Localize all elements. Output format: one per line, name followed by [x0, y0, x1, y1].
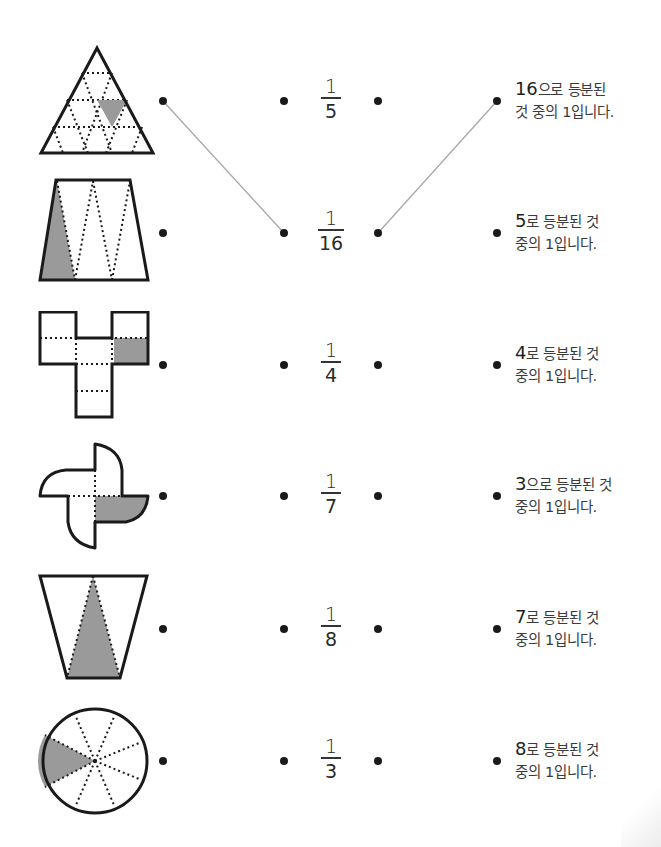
triangle-shape	[38, 45, 156, 157]
shaded-part	[95, 496, 148, 522]
fraction-right-dot-row-2[interactable]	[374, 229, 382, 237]
fraction-right-dot-row-1[interactable]	[374, 97, 382, 105]
fraction-row-5: 1 8	[311, 604, 351, 649]
fraction-right-dot-row-4[interactable]	[374, 492, 382, 500]
description-row-3: 4로 등분된 것 중의 1입니다.	[515, 342, 599, 387]
fraction-bar	[321, 757, 341, 759]
fraction-left-dot-row-5[interactable]	[280, 625, 288, 633]
description-lead: 7	[515, 606, 526, 627]
description-dot-row-1[interactable]	[493, 97, 501, 105]
description-line2: 중의 1입니다.	[515, 368, 597, 384]
fraction-bar	[321, 492, 341, 494]
fraction-right-dot-row-5[interactable]	[374, 625, 382, 633]
description-line1: 으로 등분된	[538, 82, 606, 98]
shaded-part	[114, 338, 148, 364]
description-row-2: 5로 등분된 것 중의 1입니다.	[515, 210, 599, 255]
shaded-part	[40, 181, 75, 280]
answer-line-shape1-to-fraction2	[163, 101, 284, 233]
description-line1: 으로 등분된 것	[526, 477, 612, 493]
description-line1: 로 등분된 것	[526, 214, 599, 230]
description-dot-row-5[interactable]	[493, 625, 501, 633]
description-lead: 16	[515, 78, 538, 99]
pinwheel-shape	[38, 442, 154, 552]
description-lead: 3	[515, 473, 526, 494]
description-line1: 로 등분된 것	[526, 742, 599, 758]
numerator: 1	[311, 604, 351, 624]
denominator: 5	[311, 101, 351, 121]
page-curl-shadow	[621, 727, 661, 847]
fraction-left-dot-row-2[interactable]	[280, 229, 288, 237]
description-dot-row-4[interactable]	[493, 492, 501, 500]
description-line2: 중의 1입니다.	[515, 499, 597, 515]
shape-dot-row-2[interactable]	[159, 229, 167, 237]
fraction-right-dot-row-6[interactable]	[374, 757, 382, 765]
fraction-left-dot-row-3[interactable]	[280, 361, 288, 369]
description-lead: 4	[515, 342, 526, 363]
shape-dot-row-3[interactable]	[159, 361, 167, 369]
description-line1: 로 등분된 것	[526, 346, 599, 362]
numerator: 1	[311, 340, 351, 360]
fraction-left-dot-row-4[interactable]	[280, 492, 288, 500]
fraction-left-dot-row-1[interactable]	[280, 97, 288, 105]
denominator: 7	[311, 496, 351, 516]
description-line2: 중의 1입니다.	[515, 632, 597, 648]
description-lead: 8	[515, 738, 526, 759]
denominator: 8	[311, 629, 351, 649]
fraction-left-dot-row-6[interactable]	[280, 757, 288, 765]
inverted-trapezoid-shape	[38, 574, 154, 684]
description-dot-row-6[interactable]	[493, 757, 501, 765]
fraction-bar	[321, 625, 341, 627]
answer-line-fraction2-to-desc1	[378, 101, 497, 233]
circle-shape	[38, 707, 154, 817]
description-lead: 5	[515, 210, 526, 231]
fraction-row-6: 1 3	[311, 736, 351, 781]
cross-net-shape	[38, 311, 154, 421]
shape-dot-row-5[interactable]	[159, 625, 167, 633]
fraction-row-4: 1 7	[311, 471, 351, 516]
numerator: 1	[311, 208, 351, 228]
denominator: 16	[311, 233, 351, 253]
fraction-bar	[321, 361, 341, 363]
shape-dot-row-1[interactable]	[159, 97, 167, 105]
fraction-right-dot-row-3[interactable]	[374, 361, 382, 369]
shape-dot-row-6[interactable]	[159, 757, 167, 765]
shaded-part	[97, 100, 127, 127]
numerator: 1	[311, 736, 351, 756]
denominator: 4	[311, 365, 351, 385]
trapezoid-shape	[38, 176, 154, 284]
fraction-bar	[321, 97, 341, 99]
fraction-bar	[318, 229, 344, 231]
description-line2: 중의 1입니다.	[515, 764, 597, 780]
denominator: 3	[311, 761, 351, 781]
numerator: 1	[311, 76, 351, 96]
fraction-row-1: 1 5	[311, 76, 351, 121]
description-line1: 로 등분된 것	[526, 610, 599, 626]
description-dot-row-2[interactable]	[493, 229, 501, 237]
shaded-part	[67, 576, 120, 678]
description-row-1: 16으로 등분된 것 중의 1입니다.	[515, 78, 614, 123]
fraction-row-2: 1 16	[311, 208, 351, 253]
description-dot-row-3[interactable]	[493, 361, 501, 369]
description-row-5: 7로 등분된 것 중의 1입니다.	[515, 606, 599, 651]
shape-dot-row-4[interactable]	[159, 492, 167, 500]
description-line2: 것 중의 1입니다.	[515, 104, 614, 120]
description-line2: 중의 1입니다.	[515, 236, 597, 252]
description-row-4: 3으로 등분된 것 중의 1입니다.	[515, 473, 612, 518]
description-row-6: 8로 등분된 것 중의 1입니다.	[515, 738, 599, 783]
numerator: 1	[311, 471, 351, 491]
fraction-row-3: 1 4	[311, 340, 351, 385]
